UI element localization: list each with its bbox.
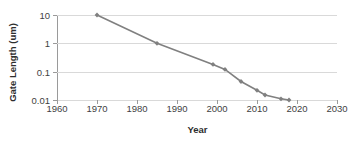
- y-axis-title: Gate Length (um): [7, 23, 18, 103]
- data-point-marker: [287, 98, 292, 103]
- chart-container: 1010.10.01 19601970198019902000201020202…: [0, 0, 353, 143]
- x-axis-title: Year: [57, 124, 338, 135]
- series-line-gate-length: [0, 0, 353, 143]
- data-point-marker: [155, 41, 160, 46]
- data-point-marker: [279, 96, 284, 101]
- data-point-marker: [95, 13, 100, 18]
- data-point-marker: [211, 62, 216, 67]
- series-path: [97, 15, 289, 100]
